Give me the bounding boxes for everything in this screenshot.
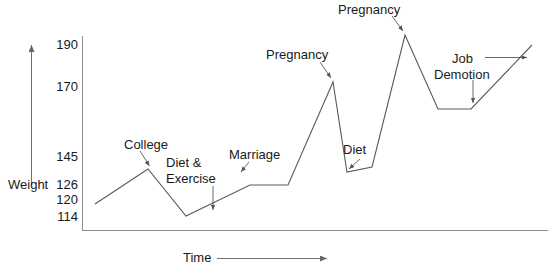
annotation-job-demotion-line2: Demotion xyxy=(434,67,490,82)
pregnancy-1-leader-arrow xyxy=(320,62,331,78)
college-leader-arrow xyxy=(140,151,150,166)
y-tick-170: 170 xyxy=(50,80,78,93)
x-axis-title: Time xyxy=(183,251,211,265)
diet-leader-arrow xyxy=(349,159,360,169)
pregnancy-2-leader-arrow xyxy=(392,16,403,31)
marriage-leader-arrow xyxy=(241,162,249,172)
chart-canvas xyxy=(0,0,549,277)
annotation-college: College xyxy=(124,137,168,152)
annotation-marriage: Marriage xyxy=(229,147,280,162)
annotation-pregnancy-1: Pregnancy xyxy=(266,47,328,62)
weight-over-time-chart: Weight Time 190 170 145 126 120 114 Coll… xyxy=(0,0,549,277)
y-tick-126: 126 xyxy=(50,178,78,191)
y-tick-190: 190 xyxy=(50,38,78,51)
y-tick-114: 114 xyxy=(50,210,78,223)
y-tick-120: 120 xyxy=(50,193,78,206)
y-tick-145: 145 xyxy=(50,150,78,163)
annotation-job-demotion-line1: Job xyxy=(452,51,473,66)
annotation-diet: Diet xyxy=(343,142,366,157)
annotation-diet-exercise-line2: Exercise xyxy=(166,171,216,186)
y-axis-title: Weight xyxy=(8,178,48,192)
annotation-diet-exercise-line1: Diet & xyxy=(166,155,201,170)
chart-axes xyxy=(82,36,548,231)
annotation-pregnancy-2: Pregnancy xyxy=(338,2,400,17)
